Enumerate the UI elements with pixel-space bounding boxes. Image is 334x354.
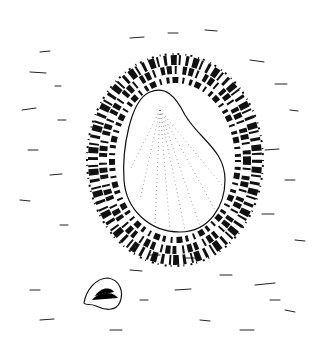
small-shell	[84, 278, 122, 309]
large-shell	[124, 90, 225, 232]
ink-drawing	[0, 0, 334, 354]
illustration	[0, 0, 334, 354]
